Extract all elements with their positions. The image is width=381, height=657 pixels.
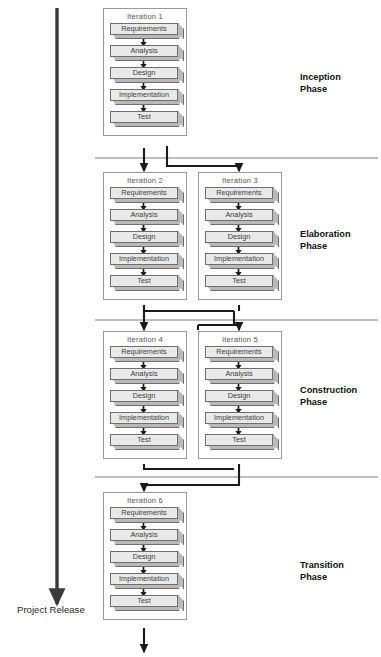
activity-step: Design bbox=[110, 231, 180, 253]
activity-box: Design bbox=[110, 551, 178, 563]
activity-step: Analysis bbox=[205, 209, 275, 231]
activity-box: Implementation bbox=[110, 412, 178, 424]
activity-box: Requirements bbox=[110, 346, 178, 358]
activity-step: Requirements bbox=[110, 507, 180, 529]
process-diagram: Iteration 1RequirementsAnalysisDesignImp… bbox=[0, 0, 381, 657]
iteration-title: Iteration 2 bbox=[104, 176, 186, 185]
activity-step: Implementation bbox=[205, 412, 275, 434]
activity-box: Design bbox=[110, 231, 178, 243]
activity-step: Requirements bbox=[205, 346, 275, 368]
activity-step: Implementation bbox=[110, 253, 180, 275]
connector-it4-exit bbox=[144, 464, 234, 469]
activity-step: Design bbox=[205, 390, 275, 412]
activity-step: Test bbox=[110, 111, 180, 133]
activity-step: Test bbox=[110, 595, 180, 617]
activity-box: Requirements bbox=[110, 187, 178, 199]
connector-merge-right bbox=[234, 311, 239, 325]
activity-box: Implementation bbox=[110, 253, 178, 265]
activity-box: Test bbox=[110, 434, 178, 446]
iteration-container: Iteration 5RequirementsAnalysisDesignImp… bbox=[198, 331, 282, 459]
activity-box: Test bbox=[110, 275, 178, 287]
activity-step: Test bbox=[110, 275, 180, 297]
activity-box: Analysis bbox=[205, 209, 273, 221]
connector-layer bbox=[0, 0, 381, 657]
iteration-container: Iteration 2RequirementsAnalysisDesignImp… bbox=[103, 172, 187, 300]
project-release-label: Project Release bbox=[17, 604, 85, 615]
iteration-container: Iteration 4RequirementsAnalysisDesignImp… bbox=[103, 331, 187, 459]
activity-box: Design bbox=[205, 231, 273, 243]
activity-step: Requirements bbox=[110, 187, 180, 209]
activity-box: Analysis bbox=[110, 209, 178, 221]
activity-step: Implementation bbox=[110, 89, 180, 111]
iteration-title: Iteration 3 bbox=[199, 176, 281, 185]
connector-it2-merge bbox=[144, 305, 234, 311]
phase-label-2: Elaboration Phase bbox=[300, 229, 351, 252]
activity-step: Analysis bbox=[110, 209, 180, 231]
iteration-container: Iteration 1RequirementsAnalysisDesignImp… bbox=[103, 8, 187, 136]
activity-step: Analysis bbox=[110, 368, 180, 390]
activity-step: Implementation bbox=[205, 253, 275, 275]
activity-step: Test bbox=[205, 275, 275, 297]
activity-box: Test bbox=[205, 434, 273, 446]
activity-box: Test bbox=[205, 275, 273, 287]
connector-to-it5 bbox=[198, 325, 239, 330]
activity-box: Requirements bbox=[205, 187, 273, 199]
activity-box: Analysis bbox=[205, 368, 273, 380]
activity-step: Test bbox=[205, 434, 275, 456]
activity-step: Analysis bbox=[110, 45, 180, 67]
activity-step: Design bbox=[110, 67, 180, 89]
activity-step: Implementation bbox=[110, 573, 180, 595]
iteration-title: Iteration 6 bbox=[104, 496, 186, 505]
phase-label-4: Transition Phase bbox=[300, 560, 344, 583]
phase-label-3: Construction Phase bbox=[300, 385, 357, 408]
activity-box: Design bbox=[110, 67, 178, 79]
activity-step: Design bbox=[110, 390, 180, 412]
activity-step: Requirements bbox=[110, 346, 180, 368]
iteration-title: Iteration 4 bbox=[104, 335, 186, 344]
activity-box: Design bbox=[110, 390, 178, 402]
activity-box: Analysis bbox=[110, 45, 178, 57]
iteration-container: Iteration 3RequirementsAnalysisDesignImp… bbox=[198, 172, 282, 300]
iteration-title: Iteration 1 bbox=[104, 12, 186, 21]
activity-box: Implementation bbox=[110, 573, 178, 585]
activity-box: Test bbox=[110, 595, 178, 607]
activity-box: Implementation bbox=[110, 89, 178, 101]
activity-step: Analysis bbox=[205, 368, 275, 390]
iteration-title: Iteration 5 bbox=[199, 335, 281, 344]
activity-step: Requirements bbox=[205, 187, 275, 209]
activity-step: Design bbox=[110, 551, 180, 573]
activity-step: Analysis bbox=[110, 529, 180, 551]
activity-step: Implementation bbox=[110, 412, 180, 434]
activity-box: Requirements bbox=[110, 507, 178, 519]
activity-step: Test bbox=[110, 434, 180, 456]
activity-box: Test bbox=[110, 111, 178, 123]
activity-step: Design bbox=[205, 231, 275, 253]
activity-box: Requirements bbox=[110, 23, 178, 35]
iteration-container: Iteration 6RequirementsAnalysisDesignImp… bbox=[103, 492, 187, 620]
connector-it1-to-it3 bbox=[167, 146, 239, 171]
activity-step: Requirements bbox=[110, 23, 180, 45]
activity-box: Implementation bbox=[205, 412, 273, 424]
phase-label-1: Inception Phase bbox=[300, 72, 341, 95]
activity-box: Analysis bbox=[110, 368, 178, 380]
activity-box: Design bbox=[205, 390, 273, 402]
activity-box: Requirements bbox=[205, 346, 273, 358]
activity-box: Implementation bbox=[205, 253, 273, 265]
activity-box: Analysis bbox=[110, 529, 178, 541]
